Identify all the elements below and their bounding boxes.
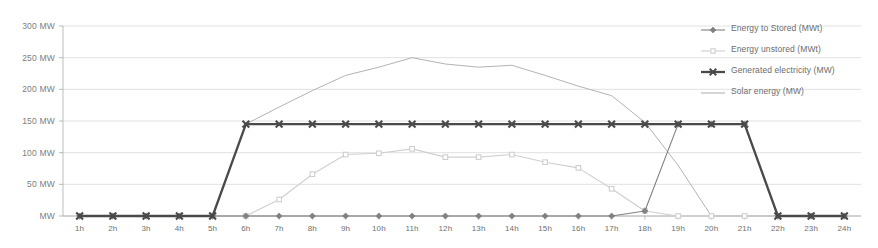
y-tick-label: 300 MW bbox=[0, 21, 55, 31]
legend-square-icon bbox=[700, 43, 726, 55]
x-tick-label: 9h bbox=[341, 224, 350, 233]
x-tick-label: 19h bbox=[671, 224, 685, 233]
x-tick-label: 8h bbox=[308, 224, 317, 233]
y-tick-label: 50 MW bbox=[0, 179, 55, 189]
legend-line-icon bbox=[700, 85, 726, 97]
x-tick-label: 7h bbox=[275, 224, 284, 233]
x-tick-label: 11h bbox=[406, 224, 419, 233]
legend-diamond-icon bbox=[700, 22, 726, 34]
x-tick-label: 2h bbox=[108, 224, 117, 233]
series-generated-electricity-mw bbox=[76, 121, 848, 220]
y-tick-label: 200 MW bbox=[0, 84, 55, 94]
x-tick-label: 20h bbox=[705, 224, 719, 233]
solar-energy-chart: MW50 MW100 MW150 MW200 MW250 MW300 MW 1h… bbox=[0, 0, 878, 248]
x-tick-label: 21h bbox=[738, 224, 752, 233]
chart-legend: Energy to Stored (MWt)Energy unstored (M… bbox=[700, 17, 835, 101]
legend-item-label: Energy unstored (MWt) bbox=[731, 44, 821, 54]
legend-item-label: Energy to Stored (MWt) bbox=[731, 23, 822, 33]
x-tick-label: 12h bbox=[439, 224, 453, 233]
legend-item-label: Generated electricity (MW) bbox=[731, 65, 835, 75]
legend-item[interactable]: Solar energy (MW) bbox=[700, 80, 835, 101]
x-tick-label: 3h bbox=[142, 224, 151, 233]
x-tick-label: 17h bbox=[605, 224, 619, 233]
y-tick-label: 100 MW bbox=[0, 148, 55, 158]
x-tick-label: 10h bbox=[372, 224, 386, 233]
x-tick-label: 22h bbox=[771, 224, 785, 233]
legend-item[interactable]: Energy unstored (MWt) bbox=[700, 38, 835, 59]
y-tick-label: 250 MW bbox=[0, 53, 55, 63]
x-tick-label: 1h bbox=[75, 224, 84, 233]
x-tick-label: 5h bbox=[208, 224, 217, 233]
x-tick-label: 4h bbox=[175, 224, 184, 233]
x-tick-label: 13h bbox=[472, 224, 486, 233]
legend-item[interactable]: Generated electricity (MW) bbox=[700, 59, 835, 80]
x-tick-label: 15h bbox=[538, 224, 552, 233]
x-tick-label: 6h bbox=[241, 224, 250, 233]
series-energy-to-stored-mwt bbox=[77, 121, 848, 219]
series-energy-unstored-mwt bbox=[77, 147, 846, 219]
x-tick-label: 23h bbox=[804, 224, 818, 233]
legend-item[interactable]: Energy to Stored (MWt) bbox=[700, 17, 835, 38]
x-tick-label: 16h bbox=[572, 224, 586, 233]
y-tick-label: 150 MW bbox=[0, 116, 55, 126]
legend-x-icon bbox=[700, 64, 726, 76]
legend-item-label: Solar energy (MW) bbox=[731, 86, 804, 96]
y-tick-label: MW bbox=[0, 211, 55, 221]
x-tick-label: 14h bbox=[505, 224, 519, 233]
x-tick-label: 18h bbox=[638, 224, 652, 233]
x-tick-label: 24h bbox=[838, 224, 852, 233]
